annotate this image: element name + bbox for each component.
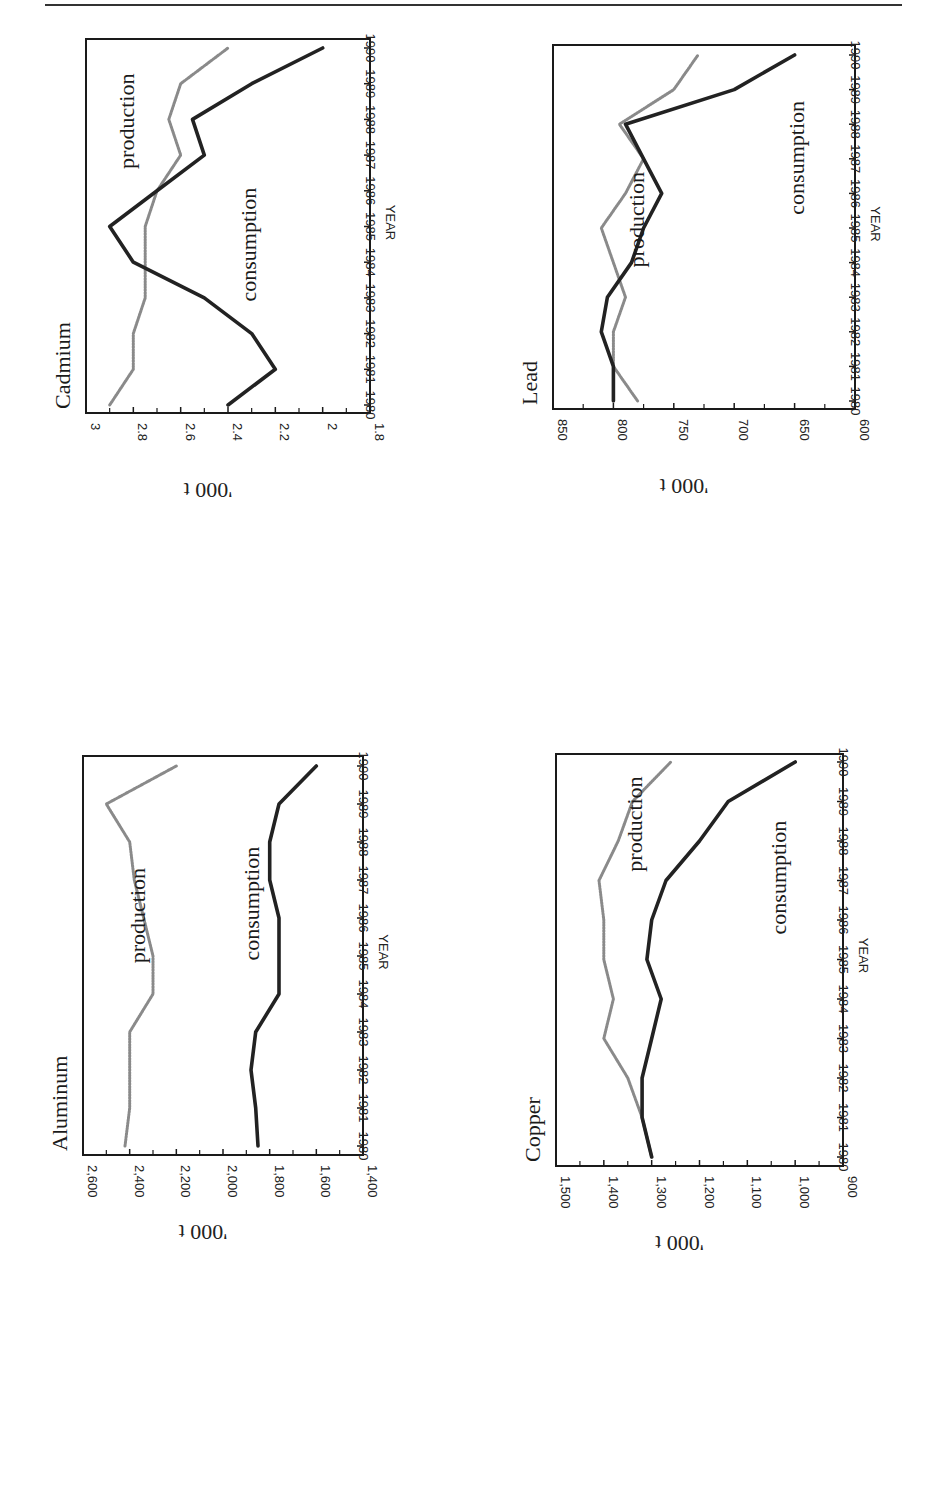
value-tick-label: 850	[555, 419, 570, 441]
annotation-consumption: consumption	[766, 821, 791, 935]
annotation-consumption: consumption	[784, 101, 809, 215]
series-line-consumption	[110, 48, 323, 405]
year-tick-label: 1987	[848, 144, 863, 173]
annotation-production: production	[622, 776, 647, 871]
value-tick-label: 1.8	[372, 423, 387, 441]
year-tick-label: 1985	[848, 214, 863, 243]
value-tick-label: 650	[797, 419, 812, 441]
year-tick-label: 1980	[836, 1143, 851, 1172]
chart-title: Cadmium	[50, 322, 75, 409]
value-tick-label: 800	[615, 419, 630, 441]
y-axis-unit-label: '000 t	[660, 474, 709, 499]
value-tick-label: 1,400	[606, 1176, 621, 1209]
year-tick-label: 1987	[356, 866, 371, 895]
value-tick-label: 700	[736, 419, 751, 441]
annotation-consumption: consumption	[236, 188, 261, 302]
x-axis-label: YEAR	[383, 205, 398, 240]
value-tick-label: 600	[857, 419, 872, 441]
value-tick-label: 750	[676, 419, 691, 441]
year-tick-label: 1983	[363, 283, 378, 312]
year-tick-label: 1988	[848, 110, 863, 139]
chart-cadmium: 32.82.62.42.221.819801981198219831984198…	[50, 34, 398, 503]
annotation-production: production	[624, 172, 649, 267]
plot-frame	[556, 754, 843, 1166]
y-axis-unit-label: '000 t	[179, 1220, 228, 1245]
year-tick-label: 1988	[836, 827, 851, 856]
year-tick-label: 1987	[836, 866, 851, 895]
year-tick-label: 1989	[848, 75, 863, 104]
year-tick-label: 1986	[363, 176, 378, 205]
value-tick-label: 1,600	[318, 1165, 333, 1198]
year-tick-label: 1990	[848, 41, 863, 70]
year-tick-label: 1988	[363, 105, 378, 134]
year-tick-label: 1981	[356, 1094, 371, 1123]
value-tick-label: 1,200	[702, 1176, 717, 1209]
year-tick-label: 1986	[356, 904, 371, 933]
year-tick-label: 1989	[836, 787, 851, 816]
value-tick-label: 1,300	[654, 1176, 669, 1209]
value-tick-label: 2.8	[135, 423, 150, 441]
y-axis-unit-label: '000 t	[184, 478, 233, 503]
chart-lead: 8508007507006506001980198119821983198419…	[517, 41, 883, 499]
value-tick-label: 2,600	[85, 1165, 100, 1198]
year-tick-label: 1982	[363, 319, 378, 348]
year-tick-label: 1990	[363, 34, 378, 63]
value-tick-label: 1,500	[558, 1176, 573, 1209]
value-tick-label: 2.2	[277, 423, 292, 441]
chart-copper: 1,5001,4001,3001,2001,1001,0009001980198…	[520, 748, 871, 1256]
year-tick-label: 1989	[356, 790, 371, 819]
year-tick-label: 1984	[836, 985, 851, 1014]
year-tick-label: 1986	[836, 906, 851, 935]
year-tick-label: 1982	[356, 1056, 371, 1085]
value-tick-label: 1,000	[797, 1176, 812, 1209]
value-tick-label: 3	[88, 423, 103, 430]
value-tick-label: 2,200	[178, 1165, 193, 1198]
y-axis-unit-label: '000 t	[655, 1231, 704, 1256]
year-tick-label: 1984	[848, 248, 863, 277]
annotation-production: production	[114, 74, 139, 169]
year-tick-label: 1990	[356, 752, 371, 781]
value-tick-label: 1,400	[365, 1165, 380, 1198]
annotation-consumption: consumption	[239, 847, 264, 961]
year-tick-label: 1987	[363, 141, 378, 170]
year-tick-label: 1985	[363, 212, 378, 241]
year-tick-label: 1980	[363, 391, 378, 420]
value-tick-label: 2.4	[230, 423, 245, 441]
year-tick-label: 1984	[356, 980, 371, 1009]
year-tick-label: 1985	[836, 945, 851, 974]
value-tick-label: 1,100	[749, 1176, 764, 1209]
year-tick-label: 1988	[356, 828, 371, 857]
value-tick-label: 2.6	[183, 423, 198, 441]
chart-title: Copper	[520, 1097, 545, 1162]
year-tick-label: 1984	[363, 248, 378, 277]
year-tick-label: 1980	[356, 1132, 371, 1161]
value-tick-label: 2,000	[225, 1165, 240, 1198]
chart-title: Lead	[517, 361, 542, 405]
year-tick-label: 1986	[848, 179, 863, 208]
chart-aluminum: 2,6002,4002,2002,0001,8001,6001,40019801…	[47, 752, 391, 1245]
year-tick-label: 1981	[848, 352, 863, 381]
x-axis-label: YEAR	[868, 206, 883, 241]
chart-title: Aluminum	[47, 1056, 72, 1151]
year-tick-label: 1989	[363, 69, 378, 98]
year-tick-label: 1982	[836, 1064, 851, 1093]
year-tick-label: 1981	[836, 1103, 851, 1132]
x-axis-label: YEAR	[376, 934, 391, 969]
value-tick-label: 2	[325, 423, 340, 430]
year-tick-label: 1990	[836, 748, 851, 777]
year-tick-label: 1980	[848, 387, 863, 416]
value-tick-label: 2,400	[132, 1165, 147, 1198]
year-tick-label: 1983	[836, 1024, 851, 1053]
year-tick-label: 1985	[356, 942, 371, 971]
year-tick-label: 1981	[363, 355, 378, 384]
annotation-production: production	[125, 868, 150, 963]
value-tick-label: 1,800	[272, 1165, 287, 1198]
chart-grid: 32.82.62.42.221.819801981198219831984198…	[0, 0, 948, 1492]
year-tick-label: 1983	[356, 1018, 371, 1047]
year-tick-label: 1982	[848, 317, 863, 346]
year-tick-label: 1983	[848, 283, 863, 312]
value-tick-label: 900	[845, 1176, 860, 1198]
x-axis-label: YEAR	[856, 938, 871, 973]
